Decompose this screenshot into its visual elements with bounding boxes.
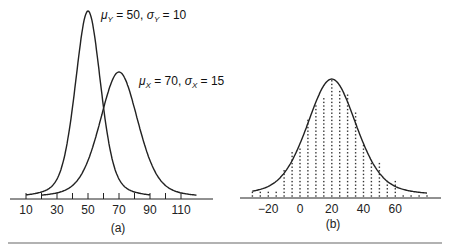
dot — [331, 134, 332, 135]
dot — [339, 195, 340, 196]
caption-b: (b) — [326, 217, 341, 231]
dot — [331, 141, 332, 142]
dot — [331, 123, 332, 124]
dot — [371, 181, 372, 182]
dot — [331, 188, 332, 189]
dot — [331, 156, 332, 157]
dot — [363, 163, 364, 164]
dot — [299, 152, 300, 153]
tick-label: 40 — [357, 202, 371, 216]
dot — [363, 159, 364, 160]
dot — [331, 174, 332, 175]
dot — [347, 177, 348, 178]
dot — [323, 192, 324, 193]
dot — [387, 188, 388, 189]
dot — [331, 145, 332, 146]
dot — [363, 192, 364, 193]
dot — [355, 149, 356, 150]
dot — [339, 159, 340, 160]
tick-label: −20 — [258, 202, 279, 216]
annotation-y: μY = 50, σY = 10 — [100, 8, 187, 24]
dot — [379, 163, 380, 164]
tick-label: 50 — [81, 203, 95, 217]
dot — [307, 127, 308, 128]
dot — [323, 138, 324, 139]
dot — [339, 152, 340, 153]
dot — [315, 149, 316, 150]
dot — [283, 181, 284, 182]
dot — [315, 109, 316, 110]
dot — [339, 156, 340, 157]
dot — [299, 159, 300, 160]
dot — [331, 91, 332, 92]
dot — [355, 170, 356, 171]
dot — [307, 174, 308, 175]
dot — [395, 181, 396, 182]
dot — [339, 138, 340, 139]
dot — [307, 156, 308, 157]
dot — [291, 192, 292, 193]
dot — [307, 170, 308, 171]
dot — [347, 163, 348, 164]
dot — [347, 174, 348, 175]
dot — [339, 192, 340, 193]
dot — [355, 177, 356, 178]
dot — [315, 113, 316, 114]
dot — [315, 138, 316, 139]
dot — [307, 149, 308, 150]
dot — [347, 185, 348, 186]
dot — [395, 192, 396, 193]
dot — [339, 149, 340, 150]
dot — [331, 80, 332, 81]
dot — [323, 163, 324, 164]
dot — [331, 113, 332, 114]
dot — [347, 152, 348, 153]
dot — [291, 195, 292, 196]
dot — [260, 195, 261, 196]
dot — [299, 192, 300, 193]
dot — [291, 156, 292, 157]
dot — [323, 145, 324, 146]
dot — [331, 195, 332, 196]
dot — [276, 192, 277, 193]
dot — [371, 163, 372, 164]
dot — [291, 152, 292, 153]
dot — [379, 185, 380, 186]
dot — [347, 105, 348, 106]
dot — [331, 105, 332, 106]
dot — [323, 185, 324, 186]
dot — [371, 192, 372, 193]
dot — [299, 163, 300, 164]
curve-x-normal — [42, 72, 197, 195]
dot — [339, 177, 340, 178]
dot — [331, 177, 332, 178]
dot — [355, 195, 356, 196]
dot — [347, 149, 348, 150]
dot — [331, 87, 332, 88]
dot — [363, 167, 364, 168]
dot — [307, 141, 308, 142]
dot — [315, 181, 316, 182]
dot — [307, 167, 308, 168]
dot — [331, 84, 332, 85]
dot — [339, 95, 340, 96]
dot — [268, 195, 269, 196]
dot — [339, 167, 340, 168]
tick-label: 30 — [50, 203, 64, 217]
dot — [331, 152, 332, 153]
dot — [323, 149, 324, 150]
dot — [299, 188, 300, 189]
dot — [299, 177, 300, 178]
dot — [299, 181, 300, 182]
dot — [323, 174, 324, 175]
dot — [355, 138, 356, 139]
dot — [387, 185, 388, 186]
tick-label: 10 — [19, 203, 33, 217]
dot — [347, 127, 348, 128]
dot — [331, 102, 332, 103]
dot — [323, 159, 324, 160]
dot — [307, 181, 308, 182]
dot — [347, 131, 348, 132]
tick-label: 90 — [143, 203, 157, 217]
dot — [355, 192, 356, 193]
